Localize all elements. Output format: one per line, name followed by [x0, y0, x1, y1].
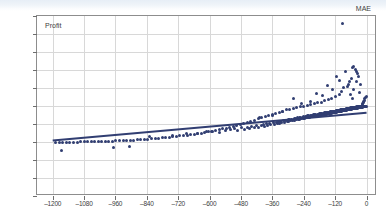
- scatter-point: [320, 112, 323, 115]
- scatter-point: [316, 114, 319, 117]
- scatter-point: [346, 108, 349, 111]
- scatter-point: [309, 100, 312, 103]
- scatter-point: [324, 111, 327, 114]
- scatter-point: [351, 66, 354, 69]
- scatter-point: [154, 137, 157, 140]
- gridline-horizontal: [37, 142, 375, 143]
- scatter-point: [332, 110, 335, 113]
- gridline-vertical: [367, 16, 368, 194]
- scatter-point: [253, 119, 256, 122]
- scatter-point: [257, 126, 260, 129]
- scatter-point: [205, 130, 208, 133]
- scatter-point: [258, 116, 261, 119]
- trend-line: [37, 16, 375, 194]
- scatter-point: [348, 80, 351, 83]
- scatter-point: [341, 108, 344, 111]
- gridline-vertical: [335, 16, 336, 194]
- scatter-point: [343, 109, 346, 112]
- scatter-point: [319, 114, 322, 117]
- scatter-point: [248, 127, 251, 130]
- chart-screenshot: Profit MAE 2300184013809204600–460–920–1…: [0, 0, 386, 223]
- scatter-point: [292, 107, 295, 110]
- scatter-point: [203, 131, 206, 134]
- scatter-point: [350, 77, 353, 80]
- scatter-point: [348, 108, 351, 111]
- scatter-point: [348, 107, 351, 110]
- scatter-point: [312, 113, 315, 116]
- scatter-point: [313, 113, 316, 116]
- scatter-point: [310, 114, 313, 117]
- scatter-point: [298, 116, 301, 119]
- scatter-point: [323, 113, 326, 116]
- x-tick-label: 0: [347, 201, 386, 208]
- scatter-point: [327, 111, 330, 114]
- scatter-point: [210, 130, 213, 133]
- scatter-point: [182, 134, 185, 137]
- scatter-point: [260, 116, 263, 119]
- y-tick-mark: [33, 70, 37, 71]
- scatter-point: [336, 110, 339, 113]
- scatter-point: [139, 138, 142, 141]
- scatter-point: [340, 108, 343, 111]
- scatter-point: [250, 125, 253, 128]
- scatter-point: [349, 93, 352, 96]
- scatter-point: [317, 114, 320, 117]
- scatter-point: [200, 132, 203, 135]
- scatter-point: [355, 80, 358, 83]
- scatter-point: [281, 110, 284, 113]
- scatter-point: [353, 107, 356, 110]
- scatter-point: [351, 97, 354, 100]
- scatter-point: [339, 110, 342, 113]
- scatter-point: [344, 108, 347, 111]
- scatter-point: [347, 108, 350, 111]
- gridline-vertical: [210, 16, 211, 194]
- scatter-point: [211, 130, 214, 133]
- scatter-point: [352, 65, 355, 68]
- gridline-vertical: [147, 16, 148, 194]
- scatter-point: [312, 115, 315, 118]
- scatter-point: [345, 107, 348, 110]
- scatter-point: [340, 109, 343, 112]
- scatter-point: [321, 94, 324, 97]
- scatter-point: [331, 110, 334, 113]
- scatter-point: [313, 102, 316, 105]
- scatter-point: [282, 119, 285, 122]
- scatter-point: [224, 129, 227, 132]
- scatter-point: [294, 117, 297, 120]
- x-axis-title: MAE: [356, 5, 371, 12]
- scatter-point: [356, 72, 359, 75]
- scatter-point: [168, 136, 171, 139]
- scatter-point: [305, 116, 308, 119]
- scatter-point: [285, 108, 288, 111]
- scatter-point: [257, 117, 260, 120]
- scatter-point: [171, 134, 174, 137]
- scatter-point: [346, 107, 349, 110]
- scatter-point: [320, 112, 323, 115]
- scatter-point: [347, 83, 350, 86]
- scatter-point: [315, 114, 318, 117]
- scatter-point: [325, 112, 328, 115]
- scatter-point: [341, 109, 344, 112]
- scatter-point: [193, 133, 196, 136]
- scatter-point: [362, 100, 365, 103]
- y-tick-mark: [33, 52, 37, 53]
- scatter-point: [349, 107, 352, 110]
- trendline-layer: [37, 16, 375, 194]
- scatter-point: [343, 108, 346, 111]
- scatter-point: [354, 107, 357, 110]
- scatter-point: [297, 118, 300, 121]
- scatter-point: [350, 107, 353, 110]
- scatter-point: [341, 22, 344, 25]
- scatter-point: [338, 93, 341, 96]
- scatter-point: [143, 138, 146, 141]
- scatter-point: [253, 126, 256, 129]
- scatter-point: [340, 108, 343, 111]
- gridline-vertical: [53, 16, 54, 194]
- scatter-point: [329, 110, 332, 113]
- scatter-point: [279, 120, 282, 123]
- scatter-point: [326, 84, 329, 87]
- gridline-horizontal: [37, 124, 375, 125]
- scatter-point: [336, 109, 339, 112]
- scatter-point: [323, 99, 326, 102]
- gridline-vertical: [304, 16, 305, 194]
